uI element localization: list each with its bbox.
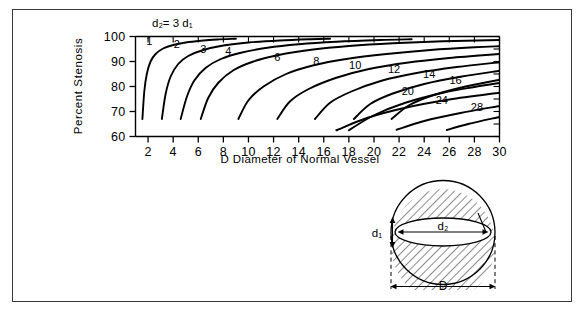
y-tick-label: 70: [111, 105, 126, 119]
stenosis-curves: [142, 39, 499, 131]
y-axis-tick-labels: 60708090100: [104, 30, 126, 144]
curve-label: 10: [349, 59, 361, 71]
curve-label: 14: [423, 68, 435, 80]
curve-label: 6: [274, 51, 280, 63]
curve-labels: 12346810121416202428: [146, 35, 483, 113]
curve-label: 24: [436, 94, 448, 106]
vessel-diagram: d₁ d₂ D: [372, 180, 505, 293]
curve-label: 3: [200, 43, 206, 55]
y-axis-label: Percent Stenosis: [72, 38, 84, 135]
curve-label: 2: [174, 38, 180, 50]
x-tick-label: 6: [195, 145, 202, 159]
y-axis-ticks: [130, 37, 136, 137]
curve-label: 16: [449, 74, 461, 86]
stenosis-curve: [397, 106, 500, 130]
curve-label: 20: [402, 85, 414, 97]
x-axis-ticks: [148, 137, 499, 143]
x-tick-label: 26: [442, 145, 457, 159]
curve-family-annotation: d₂= 3 d₁: [152, 17, 193, 29]
d1-label: d₁: [372, 227, 382, 239]
figure-root: 60708090100 24681012141618202224262830 P…: [0, 0, 586, 315]
curve-label: 4: [225, 45, 231, 57]
stenosis-chart: 60708090100 24681012141618202224262830 P…: [0, 0, 586, 315]
y-tick-label: 90: [111, 55, 126, 69]
stenosis-curve: [447, 117, 500, 130]
y-tick-label: 60: [111, 130, 126, 144]
x-tick-label: 2: [144, 145, 151, 159]
curve-label: 12: [388, 63, 400, 75]
x-tick-label: 4: [170, 145, 177, 159]
curve-label: 8: [313, 55, 319, 67]
d2-label: d₂: [438, 220, 449, 232]
y-tick-label: 80: [111, 80, 126, 94]
x-axis-label: D Diameter of Normal Vessel: [220, 153, 379, 165]
x-tick-label: 30: [492, 145, 507, 159]
D-label: D: [439, 279, 448, 293]
curve-label: 28: [471, 101, 483, 113]
curve-label: 1: [146, 35, 152, 47]
x-tick-label: 22: [392, 145, 407, 159]
right-axis-ticks: [494, 37, 500, 137]
x-tick-label: 28: [467, 145, 482, 159]
y-tick-label: 100: [104, 30, 126, 44]
x-tick-label: 24: [417, 145, 432, 159]
